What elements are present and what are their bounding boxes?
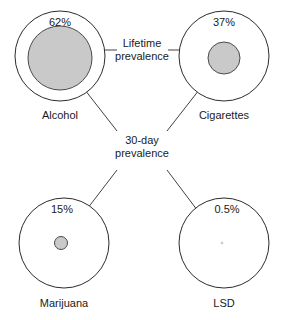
cigarettes-percent-label: 37% [213, 16, 235, 28]
figure-alcohol: 62% Alcohol [15, 11, 105, 121]
alcohol-name-label: Alcohol [42, 109, 78, 121]
lsd-percent-label: 0.5% [214, 203, 239, 215]
marijuana-name-label: Marijuana [40, 297, 89, 309]
diagram-canvas: 62% Alcohol 37% Cigarettes 15% Marijuana… [0, 0, 285, 320]
lifetime-prevalence-line2: prevalence [115, 50, 169, 62]
prevalence-diagram: 62% Alcohol 37% Cigarettes 15% Marijuana… [0, 0, 285, 320]
cigarettes-name-label: Cigarettes [199, 109, 250, 121]
figure-lsd: 0.5% LSD [179, 198, 269, 309]
lsd-name-label: LSD [213, 297, 234, 309]
cigarettes-inner-circle [208, 42, 240, 74]
alcohol-percent-label: 62% [49, 16, 71, 28]
marijuana-percent-label: 15% [51, 203, 73, 215]
thirty-day-prevalence-line2: prevalence [115, 147, 169, 159]
lsd-inner-circle [221, 242, 223, 244]
thirty-day-prevalence-line1: 30-day [125, 134, 159, 146]
alcohol-inner-circle [28, 26, 92, 90]
lifetime-prevalence-annotation: Lifetime prevalence [115, 37, 169, 62]
marijuana-inner-circle [55, 237, 68, 250]
figure-marijuana: 15% Marijuana [19, 198, 109, 309]
thirty-day-prevalence-annotation: 30-day prevalence [115, 134, 169, 159]
figure-cigarettes: 37% Cigarettes [179, 11, 269, 121]
lifetime-prevalence-line1: Lifetime [123, 37, 162, 49]
